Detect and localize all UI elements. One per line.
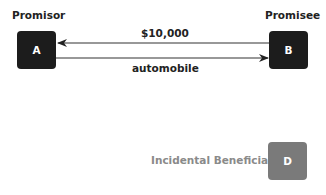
promisor-label: Promisor xyxy=(12,9,65,21)
node-d: D xyxy=(268,142,307,180)
node-a: A xyxy=(17,31,56,69)
node-b: B xyxy=(269,31,308,69)
node-b-label: B xyxy=(284,44,292,56)
incidental-beneficiary-label: Incidental Beneficiary xyxy=(151,154,280,166)
edge-label-automobile: automobile xyxy=(132,62,199,74)
edge-label-payment: $10,000 xyxy=(141,27,189,39)
node-d-label: D xyxy=(283,155,292,167)
node-a-label: A xyxy=(32,44,40,56)
promisee-label: Promisee xyxy=(265,9,320,21)
